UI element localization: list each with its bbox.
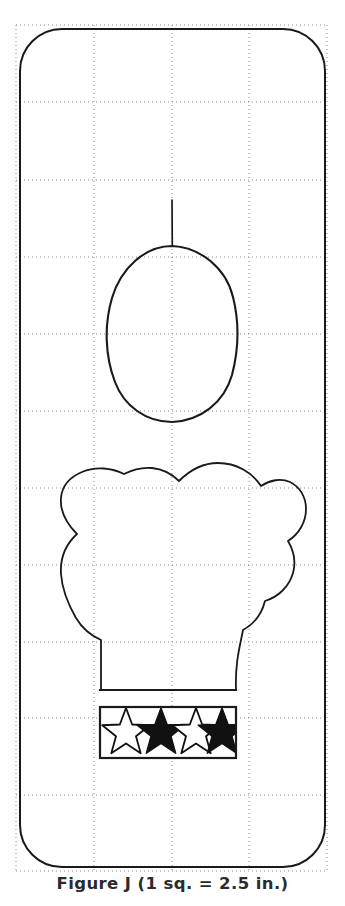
figure-caption-bar: Figure J (1 sq. = 2.5 in.) (0, 874, 345, 906)
figure-panel: Figure J (1 sq. = 2.5 in.) (0, 0, 345, 906)
figure-caption: Figure J (1 sq. = 2.5 in.) (56, 874, 288, 893)
pattern-drawing (0, 0, 345, 906)
